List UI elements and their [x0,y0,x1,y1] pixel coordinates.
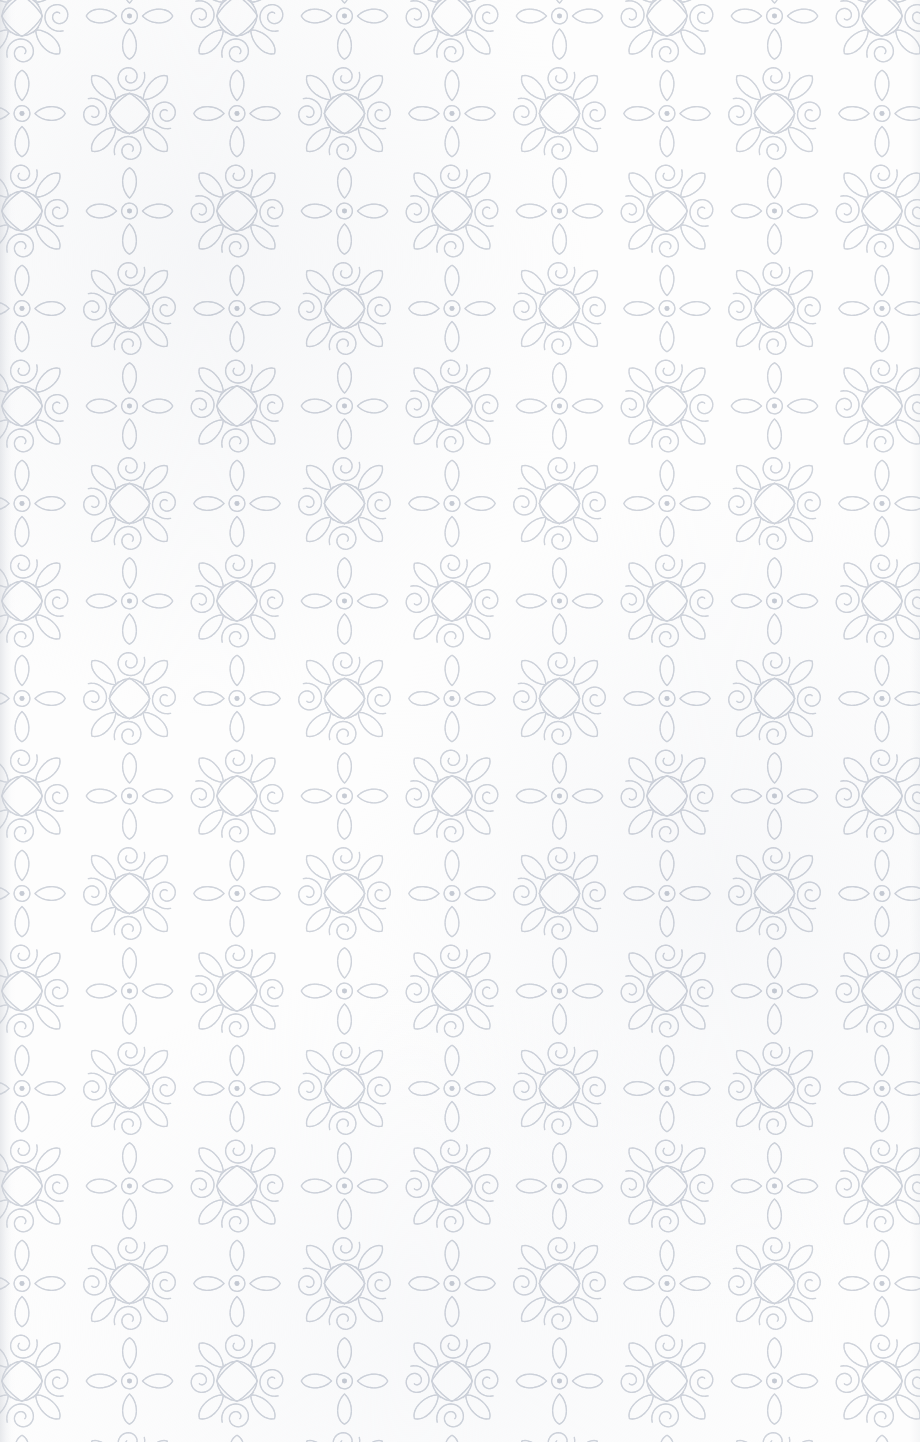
damask-pattern-layer [0,0,920,1442]
wallpaper-swatch-canvas [0,0,920,1442]
